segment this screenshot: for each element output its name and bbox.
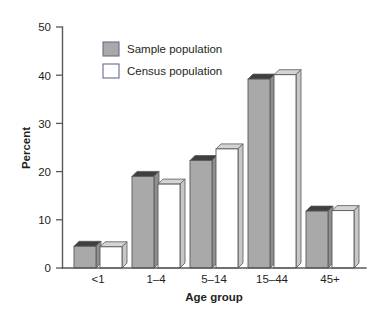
x-tick-label-1-4: 1–4 — [146, 273, 166, 285]
bar-sample-45plus — [306, 206, 333, 268]
y-tick-label-50: 50 — [38, 21, 51, 33]
bar-group-45plus — [306, 206, 359, 268]
bar-group-1-4 — [132, 171, 185, 268]
bar-sample-1-4 — [132, 171, 159, 268]
bar-census-1-4 — [158, 179, 185, 268]
y-tick-label-0: 0 — [45, 262, 51, 274]
chart-svg: 50 40 30 20 10 0 Percent — [0, 0, 374, 318]
legend-label-sample-population: Sample population — [127, 43, 222, 55]
bar-census-lt1 — [100, 242, 127, 268]
y-tick-label-40: 40 — [38, 70, 51, 82]
x-tick-label-lt1: <1 — [91, 273, 104, 285]
x-tick-label-15-44: 15–44 — [256, 273, 289, 285]
x-axis-title: Age group — [185, 291, 243, 303]
bar-census-15-44 — [274, 70, 301, 268]
y-tick-label-30: 30 — [38, 118, 51, 130]
bar-sample-5-14 — [190, 156, 217, 269]
x-tick-label-5-14: 5–14 — [201, 273, 227, 285]
y-tick-label-20: 20 — [38, 166, 51, 178]
bar-census-5-14 — [216, 144, 243, 268]
legend-label-census-population: Census population — [127, 65, 222, 77]
bar-group-5-14 — [190, 144, 243, 268]
bar-sample-lt1 — [74, 241, 101, 268]
bar-chart-figure: 50 40 30 20 10 0 Percent — [0, 0, 374, 318]
y-axis-title: Percent — [20, 127, 32, 169]
empty-white-swatch — [103, 64, 119, 78]
bar-group-lt1 — [74, 241, 127, 268]
bar-census-45plus — [332, 206, 359, 268]
bar-group-15-44 — [248, 70, 301, 268]
x-tick-label-45plus: 45+ — [320, 273, 340, 285]
y-tick-label-10: 10 — [38, 214, 51, 226]
filled-gray-swatch — [103, 42, 119, 56]
bar-sample-15-44 — [248, 74, 275, 268]
